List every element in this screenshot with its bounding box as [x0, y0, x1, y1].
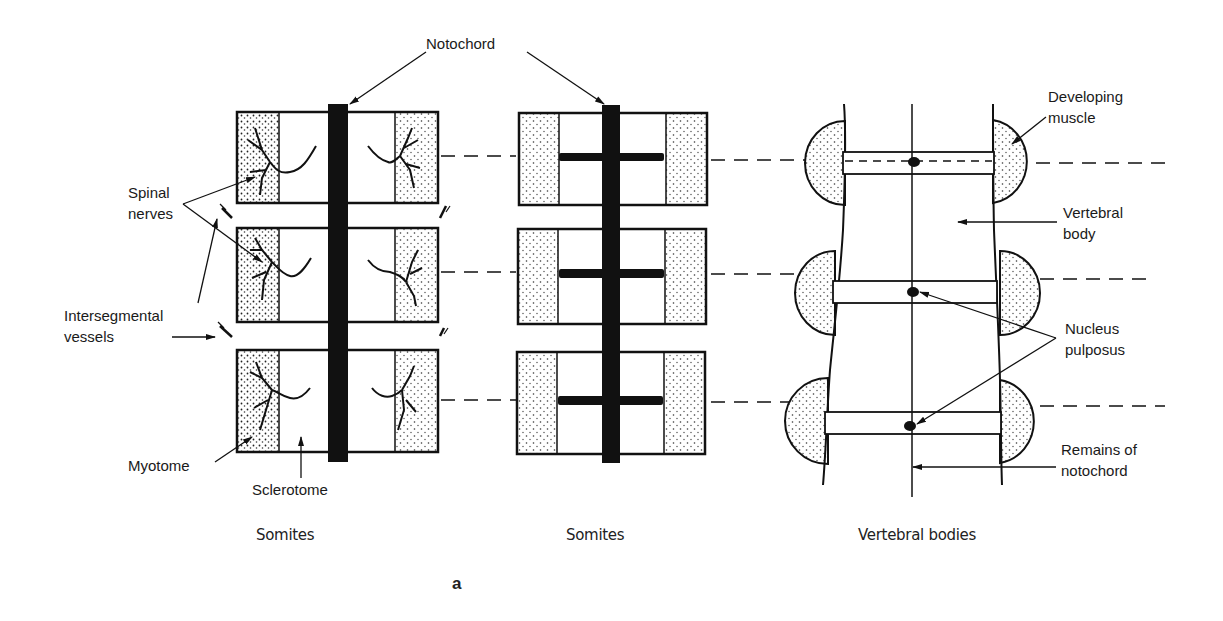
- label-spinal-nerves: Spinal nerves: [128, 182, 173, 224]
- caption-vertebral-bodies: Vertebral bodies: [858, 526, 976, 544]
- label-intersegmental-line1: Intersegmental: [64, 305, 163, 326]
- label-myotome: Myotome: [128, 455, 190, 476]
- label-nucleus-pulposus: Nucleus pulposus: [1065, 318, 1125, 360]
- label-intersegmental-vessels: Intersegmental vessels: [64, 305, 163, 347]
- label-remains-line2: notochord: [1061, 460, 1137, 481]
- notochord-rod: [602, 105, 620, 463]
- label-remains-of-notochord: Remains of notochord: [1061, 439, 1137, 481]
- panel-vertebral-bodies: [785, 104, 1057, 497]
- caption-somites-2: Somites: [566, 526, 624, 544]
- panel-somites-2: [517, 105, 707, 463]
- label-spinal-nerves-line1: Spinal: [128, 182, 173, 203]
- label-remains-line1: Remains of: [1061, 439, 1137, 460]
- label-developing-muscle-line2: muscle: [1048, 107, 1123, 128]
- label-spinal-nerves-line2: nerves: [128, 203, 173, 224]
- label-nucleus-pulposus-line2: pulposus: [1065, 339, 1125, 360]
- label-vertebral-body: Vertebral body: [1063, 202, 1123, 244]
- label-developing-muscle: Developing muscle: [1048, 86, 1123, 128]
- label-developing-muscle-line1: Developing: [1048, 86, 1123, 107]
- label-sclerotome: Sclerotome: [252, 479, 328, 500]
- notochord-rod: [328, 104, 348, 462]
- label-intersegmental-line2: vessels: [64, 326, 163, 347]
- label-nucleus-pulposus-line1: Nucleus: [1065, 318, 1125, 339]
- label-vertebral-body-line2: body: [1063, 223, 1123, 244]
- caption-somites-1: Somites: [256, 526, 314, 544]
- label-notochord: Notochord: [426, 33, 495, 54]
- label-vertebral-body-line1: Vertebral: [1063, 202, 1123, 223]
- figure-label: a: [452, 574, 461, 594]
